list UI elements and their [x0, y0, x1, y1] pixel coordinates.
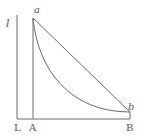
point-b-label: b [128, 101, 134, 112]
point-a-label: a [34, 4, 40, 15]
brachistochrone-diagram: l a b L A B [0, 0, 144, 140]
axis-label-l: l [6, 17, 10, 30]
base-label-L: L [14, 122, 21, 133]
base-label-B: B [126, 122, 133, 133]
straight-path-a-b [33, 18, 130, 112]
base-label-A: A [28, 122, 37, 133]
